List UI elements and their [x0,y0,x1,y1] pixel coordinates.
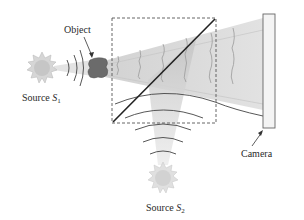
source1-sun-icon [27,52,57,83]
camera-label: Camera [241,148,272,159]
camera-sensor [263,14,275,128]
source1-beam [54,60,92,76]
source2-sun-icon [148,162,178,193]
diagram-canvas [0,0,304,220]
object-label: Object [64,24,91,35]
source1-label: Source S1 [22,92,61,105]
source2-label: Source S2 [146,202,185,215]
object-shape [88,58,108,78]
